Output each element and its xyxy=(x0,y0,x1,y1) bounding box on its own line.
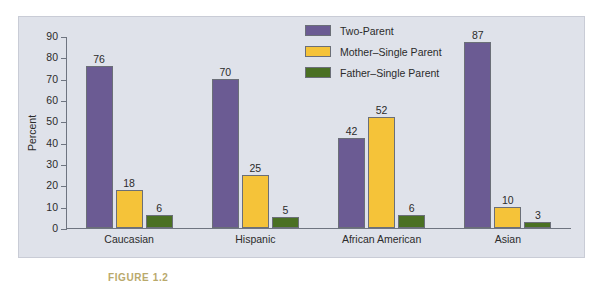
y-tick-label: 70 xyxy=(46,73,58,86)
y-tick-mark xyxy=(61,144,67,145)
bar: 76 xyxy=(86,66,113,228)
y-tick-mark xyxy=(61,165,67,166)
legend-color-swatch xyxy=(305,67,331,78)
legend-item: Mother–Single Parent xyxy=(305,43,495,60)
bar: 52 xyxy=(368,117,395,228)
bar: 25 xyxy=(242,175,269,228)
legend-item-label: Mother–Single Parent xyxy=(340,46,442,58)
y-tick-label: 50 xyxy=(46,115,58,128)
y-axis-title: Percent xyxy=(26,115,38,151)
legend-item: Two-Parent xyxy=(305,22,495,39)
bar-value-label: 70 xyxy=(220,66,232,78)
bar-value-label: 3 xyxy=(535,209,541,221)
legend-color-swatch xyxy=(305,46,331,57)
y-tick-mark xyxy=(61,101,67,102)
bar: 10 xyxy=(494,207,521,228)
bar: 6 xyxy=(146,215,173,228)
x-axis-category-label: Asian xyxy=(495,233,521,245)
bar-value-label: 42 xyxy=(346,125,358,137)
x-axis-line xyxy=(66,228,571,229)
y-tick-label: 40 xyxy=(46,137,58,150)
bar-value-label: 5 xyxy=(282,204,288,216)
bar-value-label: 18 xyxy=(123,177,135,189)
bar-value-label: 52 xyxy=(376,104,388,116)
bar: 42 xyxy=(338,138,365,228)
bar: 5 xyxy=(272,217,299,228)
bar-value-label: 6 xyxy=(156,202,162,214)
legend-item-label: Father–Single Parent xyxy=(340,67,439,79)
bar-value-label: 25 xyxy=(250,162,262,174)
bar: 3 xyxy=(524,222,551,228)
y-axis-line xyxy=(66,37,67,229)
y-tick-label: 30 xyxy=(46,158,58,171)
y-tick-mark xyxy=(61,80,67,81)
bar: 6 xyxy=(398,215,425,228)
y-tick-mark xyxy=(61,208,67,209)
y-tick-mark xyxy=(61,186,67,187)
legend-color-swatch xyxy=(305,25,331,36)
y-tick-label: 80 xyxy=(46,51,58,64)
y-tick-label: 20 xyxy=(46,179,58,192)
bar-group: 70255Hispanic xyxy=(212,36,299,228)
chart-panel: Percent 0102030405060708090 76186Caucasi… xyxy=(18,16,585,258)
y-tick-label: 90 xyxy=(46,30,58,43)
bar-group: 76186Caucasian xyxy=(86,36,173,228)
bar: 70 xyxy=(212,79,239,228)
bar-value-label: 6 xyxy=(409,202,415,214)
y-tick-mark xyxy=(61,58,67,59)
bar-value-label: 10 xyxy=(502,194,514,206)
legend-item-label: Two-Parent xyxy=(340,25,394,37)
legend-item: Father–Single Parent xyxy=(305,64,495,81)
y-tick-label: 0 xyxy=(52,222,58,235)
legend: Two-ParentMother–Single ParentFather–Sin… xyxy=(305,22,495,85)
y-tick-mark xyxy=(61,122,67,123)
y-tick-mark xyxy=(61,37,67,38)
y-tick-label: 60 xyxy=(46,94,58,107)
x-axis-category-label: Caucasian xyxy=(104,233,154,245)
bar: 18 xyxy=(116,190,143,228)
x-axis-category-label: Hispanic xyxy=(235,233,275,245)
bar-value-label: 76 xyxy=(93,53,105,65)
figure-caption: FIGURE 1.2 xyxy=(108,272,168,286)
x-axis-category-label: African American xyxy=(342,233,421,245)
y-tick-mark xyxy=(61,229,67,230)
y-tick-label: 10 xyxy=(46,201,58,214)
figure-container: Percent 0102030405060708090 76186Caucasi… xyxy=(0,0,614,286)
